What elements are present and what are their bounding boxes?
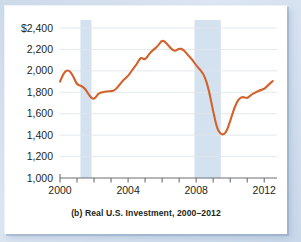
x-axis-labels-group: 2000200420082012 (48, 184, 276, 196)
x-axis-tick-label: 2004 (116, 184, 140, 196)
recession-band (194, 20, 220, 178)
x-axis-tick-label: 2012 (253, 184, 277, 196)
recession-bands-group (80, 20, 220, 178)
figure-card: 1,0001,2001,4001,6001,8002,0002,200$2,40… (4, 5, 287, 234)
y-axis-tick-label: $2,400 (21, 22, 53, 34)
y-axis-tick-label: 1,800 (27, 86, 53, 98)
investment-line-chart: 1,0001,2001,4001,6001,8002,0002,200$2,40… (5, 6, 287, 206)
data-line-real-investment (60, 41, 273, 135)
y-axis-labels-group: 1,0001,2001,4001,6001,8002,0002,200$2,40… (21, 22, 53, 184)
x-axis-group (60, 174, 277, 183)
x-axis-tick-label: 2008 (184, 184, 208, 196)
chart-area: 1,0001,2001,4001,6001,8002,0002,200$2,40… (5, 6, 287, 206)
y-axis-tick-label: 2,200 (27, 43, 53, 55)
figure-caption: (b) Real U.S. Investment, 2000–2012 (5, 208, 287, 218)
x-axis-tick-label: 2000 (48, 184, 72, 196)
y-axis-tick-label: 1,000 (27, 172, 53, 184)
figure-page: 1,0001,2001,4001,6001,8002,0002,200$2,40… (0, 0, 301, 242)
y-axis-tick-label: 1,200 (27, 150, 53, 162)
y-axis-tick-label: 2,000 (27, 64, 53, 76)
y-axis-tick-label: 1,400 (27, 129, 53, 141)
y-axis-tick-label: 1,600 (27, 107, 53, 119)
recession-band (80, 20, 91, 178)
